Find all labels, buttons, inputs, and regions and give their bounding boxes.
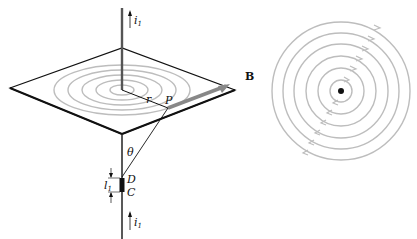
label-b: B [245,70,254,83]
label-i1-bottom: i1 [134,216,142,230]
wire-cross-section [338,88,344,94]
label-r: r [146,93,152,106]
l1-arrowhead-top [109,173,113,178]
label-theta: θ [127,146,134,159]
label-l1: l1 [104,179,112,193]
label-i1-top: i1 [134,14,142,28]
label-c: C [127,186,136,199]
current-arrowhead-top [128,10,132,16]
diagram-canvas: i1 r P B θ D C l1 i1 [0,0,417,239]
current-arrowhead-bottom [128,211,132,217]
label-p: P [164,94,173,107]
label-d: D [126,173,136,186]
current-element-cd [120,178,125,192]
